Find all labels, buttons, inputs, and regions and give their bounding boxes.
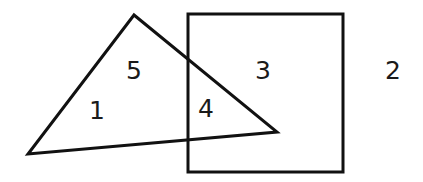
region-label-5: 5 (126, 58, 142, 83)
region-label-2: 2 (385, 58, 401, 83)
region-label-1: 1 (89, 98, 105, 123)
region-label-3: 3 (255, 58, 271, 83)
triangle-shape (28, 15, 277, 154)
region-label-4: 4 (198, 96, 214, 121)
diagram-canvas (0, 0, 423, 182)
